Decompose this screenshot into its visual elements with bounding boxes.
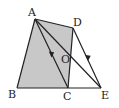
label-d: D (73, 16, 82, 29)
parallel-arrow-de-icon (85, 55, 90, 61)
label-a: A (27, 6, 37, 19)
label-c: C (63, 90, 71, 103)
label-b: B (8, 88, 16, 101)
geometry-diagram: A D O B C E (0, 0, 119, 108)
label-e: E (101, 89, 109, 102)
label-o: O (61, 53, 70, 66)
